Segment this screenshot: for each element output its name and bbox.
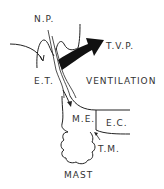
ventilation-arrow — [58, 38, 104, 70]
label-tvp: T.V.P. — [105, 41, 134, 51]
ear-canal-bottom — [96, 130, 130, 134]
label-tm: T.M. — [97, 144, 120, 154]
label-me: M.E. — [72, 114, 95, 124]
label-ventilation: VENTILATION — [86, 76, 156, 86]
mastoid-cloud — [61, 132, 95, 164]
np-loop-right — [56, 24, 80, 50]
label-mast: MAST — [64, 170, 93, 180]
label-np: N.P. — [34, 14, 54, 24]
me-arrowhead — [67, 101, 72, 107]
label-et: E.T. — [34, 76, 54, 86]
label-ec: E.C. — [106, 118, 128, 128]
ventilation-diagram: N.P. T.V.P. E.T. VENTILATION M.E. E.C. T… — [0, 0, 164, 189]
middle-ear-left-wall — [62, 96, 68, 132]
np-loop-left — [37, 40, 54, 68]
middle-ear-top-wall — [70, 96, 130, 110]
